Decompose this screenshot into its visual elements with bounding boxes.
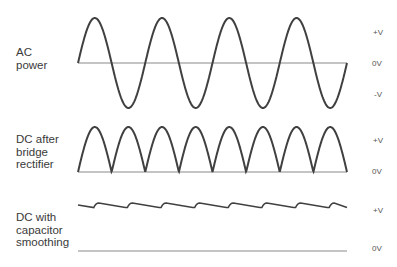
label-line: rectifier bbox=[16, 158, 59, 171]
smooth-zero-v: 0V bbox=[372, 244, 382, 253]
smooth-plus-v: +V bbox=[373, 206, 383, 215]
smoothed-dc-ripple bbox=[78, 203, 347, 208]
label-line: DC after bbox=[16, 133, 59, 146]
rect-plus-v: +V bbox=[373, 136, 383, 145]
dc-smoothing-label: DC with capacitor smoothing bbox=[16, 211, 69, 249]
label-line: bridge bbox=[16, 146, 59, 159]
label-line: smoothing bbox=[16, 236, 69, 249]
label-line: DC with bbox=[16, 211, 69, 224]
label-line: power bbox=[16, 59, 47, 72]
dc-rectifier-label: DC after bridge rectifier bbox=[16, 133, 59, 171]
ac-plus-v: +V bbox=[373, 28, 383, 37]
ac-minus-v: -V bbox=[374, 90, 382, 99]
ac-power-label: AC power bbox=[16, 46, 47, 71]
rect-zero-v: 0V bbox=[372, 167, 382, 176]
rectified-wave bbox=[78, 127, 347, 172]
label-line: AC bbox=[16, 46, 47, 59]
label-line: capacitor bbox=[16, 224, 69, 237]
ac-zero-v: 0V bbox=[372, 59, 382, 68]
